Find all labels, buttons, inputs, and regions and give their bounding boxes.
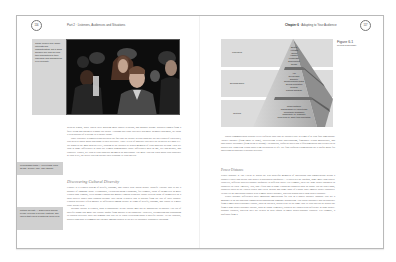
paragraph: western region, while others were growin… [67,126,181,137]
right-body-power-distance: Power distance is "the extent to which t… [221,174,335,216]
figure-caption: Figure 6.1 Levels of Diversity [337,40,356,47]
levels-of-diversity-pyramid: Individual Demographic Cultural Beliefs … [221,39,333,127]
tier-items-demographic: Age Sex/Gender Ethnicity Socioeconomic s… [277,72,311,92]
running-head-left: Part 2 · Listeners, Audiences and Situat… [67,23,125,27]
book-spread: 116 Part 2 · Listeners, Audiences and Si… [16,15,384,249]
paragraph: Once you have recognized and accepted th… [67,137,181,158]
gutter [199,16,200,248]
tier-items-individual: Beliefs Attitudes Values Hobbies Knowled… [283,46,305,66]
tier-items-cultural: Power distance Individualism vs. collect… [269,105,319,119]
tier-label-individual: Individual [225,51,249,54]
tier-label-demographic: Demographic [225,82,249,85]
photo-caption-box: These people may share interests and cha… [32,39,67,115]
side-note-cultural-diversity: cultural diversity — Differences among p… [17,207,63,230]
figure-title: Levels of Diversity [337,44,356,47]
paragraph: Because culture is learned, what is appr… [67,207,181,221]
left-body-top: western region, while others were growin… [67,126,181,158]
paragraph: Culture is a learned system of beliefs, … [67,186,181,207]
right-body-intro: Dutch communication scholar Geert Hofste… [221,135,335,153]
section-heading-cultural-diversity: Discovering Cultural Diversity [67,179,119,184]
paragraph: Dutch communication scholar Geert Hofste… [221,135,335,153]
photo-caption: These people may share interests and cha… [35,42,63,63]
tier-label-cultural: Cultural [225,112,249,115]
running-head-title: Adapting to Your Audience [301,23,336,27]
running-head-right: Chapter 6 · Adapting to Your Audience [285,23,337,27]
page-number-right: 117 [360,20,371,31]
section-heading-power-distance: Power Distance [221,168,244,172]
paragraph: Power distance differences have importan… [221,195,335,216]
audience-photo [66,39,180,115]
paragraph: Power distance is "the extent to which t… [221,174,335,195]
audience-photo-image [67,40,180,115]
side-note-demographic-traits: demographic traits — Fixed traits, such … [17,162,63,175]
tier-item: Needs [283,63,305,66]
tier-item: Long-term vs. short-term orientation [269,116,319,119]
tier-item: Political affiliation [277,89,311,92]
running-head-chapter: Chapter 6 [285,23,299,27]
page-number-left: 116 [31,20,42,31]
left-body-bottom: Culture is a learned system of beliefs, … [67,186,181,221]
